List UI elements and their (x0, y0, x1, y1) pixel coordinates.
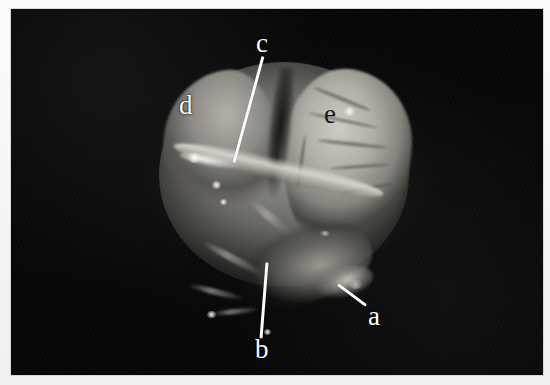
specular-highlight (207, 311, 216, 318)
annotation-label-d: d (179, 92, 193, 119)
endoscopic-photo: a b c d e (11, 9, 543, 375)
specular-highlight (220, 199, 227, 205)
annotation-label-c: c (256, 30, 268, 57)
annotation-label-b: b (255, 336, 269, 363)
tissue-strand (187, 282, 245, 302)
specular-highlight (188, 153, 201, 163)
photo-frame: a b c d e (0, 0, 550, 385)
annotation-label-e: e (324, 101, 336, 128)
specular-highlight (212, 181, 221, 189)
specular-highlight (344, 107, 355, 116)
figure-root: a b c d e (0, 0, 550, 385)
annotation-label-a: a (368, 303, 380, 330)
tissue-strand (211, 307, 259, 317)
